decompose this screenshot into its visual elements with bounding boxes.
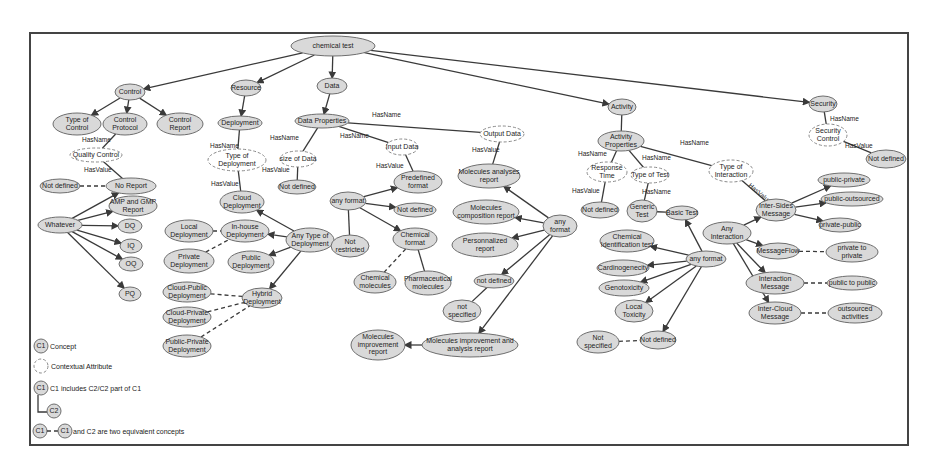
node-label: Deployment xyxy=(232,262,269,270)
node-security: Security xyxy=(809,96,837,112)
node-not-specified-activity: Notspecified xyxy=(577,331,619,353)
edge-cloud-public-to-hybrid-deployment xyxy=(211,294,243,297)
node-label: Security xyxy=(810,100,836,108)
edge-any-format-activity-to-cardiogenicity xyxy=(648,261,687,265)
node-label: Report xyxy=(169,124,190,132)
node-inter-cloud-message: Inter-CloudMessage xyxy=(749,302,801,324)
node-label: DQ xyxy=(125,222,136,230)
node-label: outsourced xyxy=(838,305,873,312)
node-label: Predefined xyxy=(401,174,435,181)
node-label: Control xyxy=(817,135,840,142)
edge-label: HasName xyxy=(642,188,671,195)
node-root: chemical test xyxy=(291,36,375,56)
legend-symbol: C1 xyxy=(36,427,45,434)
edge-response-time-to-not-defined-response xyxy=(601,182,605,202)
node-public-to-public: public to public xyxy=(827,276,877,290)
edge-label: HasName xyxy=(680,139,709,146)
node-chemical-format: Chemicalformat xyxy=(393,228,437,250)
node-label: Local xyxy=(626,303,643,310)
node-molecules-analyses-report: Molecules analysesreport xyxy=(458,164,520,188)
node-label: Deployment xyxy=(170,231,207,239)
node-private-public: private-public xyxy=(819,218,861,232)
node-type-of-deployment: Type ofDeployment xyxy=(208,149,266,171)
node-label: public to public xyxy=(829,279,876,287)
legend-label: and C2 are two equivalent concepts xyxy=(73,428,185,436)
node-label: format xyxy=(408,182,428,189)
node-label: specified xyxy=(584,342,612,350)
node-oq: OQ xyxy=(119,257,143,271)
node-label: Deployment xyxy=(243,298,280,306)
legend-label: Concept xyxy=(50,343,76,351)
edge-label: HasName xyxy=(210,142,239,149)
edge-label: HasName xyxy=(830,115,859,122)
node-label: Report xyxy=(122,206,143,214)
node-label: Deployment xyxy=(168,317,205,325)
node-response-time: ResponseTime xyxy=(587,162,627,182)
node-public-private: Public-PrivateDeployment xyxy=(163,335,211,357)
edge-input-data-to-predefined-format xyxy=(406,155,414,171)
legend: C1ConceptContextual AttributeC1C1 includ… xyxy=(33,339,185,438)
edge-cloud-private-to-hybrid-deployment xyxy=(208,303,245,312)
node-label: Not defined xyxy=(279,183,315,190)
node-label: Deployment xyxy=(291,240,328,248)
node-private-to-private: private toprivate xyxy=(826,242,878,262)
legend-include-connector xyxy=(38,395,47,412)
edge-any-format-input-to-not-restricted xyxy=(348,210,349,235)
node-cloud-deployment: CloudDeployment xyxy=(220,191,264,213)
node-label: Not xyxy=(593,334,604,341)
node-type-of-test: Type of Test xyxy=(631,167,669,183)
node-label: Activity xyxy=(611,103,634,111)
edge-not-defined-output-to-not-specified-output xyxy=(472,288,487,302)
node-size-of-data: size of Data xyxy=(280,151,317,167)
edge-label: HasName xyxy=(578,150,607,157)
edge-label: HasValue xyxy=(572,187,600,194)
node-chemical-molecules: Chemicalmolecules xyxy=(354,271,396,293)
ontology-diagram: HasNameHasValueHasNameHasValueHasValueHa… xyxy=(0,0,938,473)
node-cloud-private: Cloud-PrivateDeployment xyxy=(163,307,211,327)
node-not-defined-output: not defined xyxy=(474,274,514,288)
node-pharmaceutical-molecules: Pharmaceuticalmolecules xyxy=(404,271,453,295)
edge-data-properties-to-size-of-data xyxy=(303,128,318,151)
edge-private-deployment-to-inhouse-deployment xyxy=(206,239,230,252)
node-resource: Resource xyxy=(231,80,261,96)
edge-chemical-format-to-pharmaceutical-molecules xyxy=(418,250,424,271)
node-label: Not defined xyxy=(582,206,618,213)
edge-any-format-input-to-not-defined-input xyxy=(365,203,395,207)
node-message-flow: MessageFlow xyxy=(756,243,800,259)
node-label: public-private xyxy=(823,176,865,184)
node-any-format-input: any format xyxy=(330,192,366,210)
node-label: Molecules xyxy=(362,333,394,340)
node-molecules-improvement-report: Moleculesimprovementreport xyxy=(351,330,405,360)
legend-attribute-icon xyxy=(34,359,48,373)
node-local-deployment: LocalDeployment xyxy=(165,220,213,242)
node-inhouse-deployment: In-houseDeployment xyxy=(221,220,269,242)
edge-whatever-to-iq xyxy=(77,230,121,243)
node-any-format-output: anyformat xyxy=(543,215,577,237)
node-label: Output Data xyxy=(483,130,521,138)
edge-label: HasName xyxy=(270,134,299,141)
node-label: Data xyxy=(325,82,340,89)
node-label: composition report xyxy=(457,212,515,220)
edge-any-format-output-to-molecules-composition-report xyxy=(515,218,543,223)
node-data-properties: Data Properties xyxy=(295,114,349,128)
node-label: Message xyxy=(762,210,791,218)
node-label: Control xyxy=(114,116,137,123)
node-dq: DQ xyxy=(118,219,142,233)
edge-root-to-activity xyxy=(364,53,608,105)
node-control-protocol: ControlProtocol xyxy=(103,113,147,135)
node-any-format-activity: any format xyxy=(686,251,726,267)
node-output-data: Output Data xyxy=(480,126,524,142)
node-label: format xyxy=(550,226,570,233)
node-label: private xyxy=(841,252,862,260)
node-any-interaction: AnyInteraction xyxy=(703,222,751,244)
node-not-defined-qc: Not defined xyxy=(40,179,80,193)
node-label: chemical test xyxy=(313,42,354,49)
node-label: Deployment xyxy=(226,231,263,239)
node-label: AMP and GMP xyxy=(110,198,157,205)
node-label: Public xyxy=(241,254,261,261)
node-label: MessageFlow xyxy=(756,247,800,255)
node-label: Control xyxy=(66,124,89,131)
legend-symbol: C1 xyxy=(37,342,46,349)
node-cardiogenicity: Cardinogenecity xyxy=(597,260,649,276)
legend-label: C1 includes C2/C2 part of C1 xyxy=(50,385,141,393)
